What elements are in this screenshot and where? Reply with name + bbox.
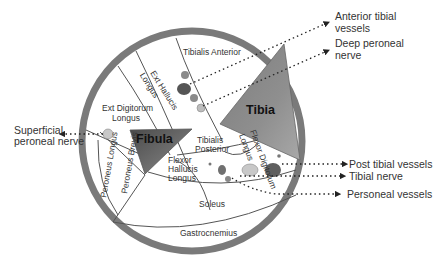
label-soleus: Soleus — [199, 199, 225, 209]
peroneal-vessel — [218, 165, 226, 175]
callout-peroneal-vessels: Personeal vessels — [347, 188, 432, 200]
tibial-nerve — [242, 164, 258, 176]
anterior-tibial-vessel-large — [177, 83, 191, 95]
label-ext-digitorum-1: Ext Digitorum — [102, 103, 153, 113]
callout-tibial-nerve: Tibial nerve — [349, 170, 403, 182]
label-tibialis-anterior: Tibialis Anterior — [183, 47, 241, 57]
anterior-tibial-vessel-small — [181, 71, 189, 79]
label-tibialis-posterior-2: Posterior — [195, 144, 229, 154]
label-ext-digitorum-2: Longus — [112, 113, 140, 123]
label-flexor-hallucis-3: Longus — [168, 173, 196, 183]
label-gastrocnemius: Gastrocnemius — [180, 228, 237, 238]
callout-deep-peroneal-2: nerve — [335, 49, 361, 61]
callout-anterior-tibial-2: vessels — [335, 22, 370, 34]
tibia-label: Tibia — [246, 103, 276, 117]
callout-deep-peroneal-1: Deep peroneal — [335, 37, 404, 49]
fibula-label: Fibula — [136, 132, 174, 146]
anterior-tibial-vessel-2 — [190, 94, 198, 102]
peroneal-vessel-small — [225, 176, 231, 182]
leg-cross-section-diagram: Tibia Fibula Tibialis Anterior Ext Hallu… — [0, 0, 438, 260]
callout-post-tibial: Post tibial vessels — [349, 158, 432, 170]
callout-superficial-peroneal-2: peroneal nerve — [14, 135, 84, 147]
callout-anterior-tibial-1: Anterior tibial — [335, 10, 396, 22]
